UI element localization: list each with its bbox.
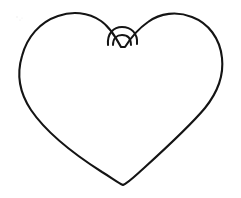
paper-speck <box>19 19 20 20</box>
heart-drawing: Heart Outline Drawing <box>0 0 241 198</box>
paper-speck <box>16 16 17 17</box>
image-canvas: Heart Outline Drawing <box>0 0 241 198</box>
paper-speck <box>22 18 23 19</box>
